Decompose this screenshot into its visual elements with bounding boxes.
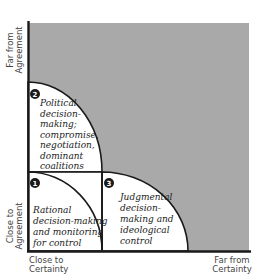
svg-text:decision-: decision- (40, 109, 81, 119)
svg-text:decision-making: decision-making (33, 216, 108, 226)
svg-text:negotiation,: negotiation, (40, 140, 95, 150)
x-axis-left-label: Close to Certainty (29, 255, 68, 274)
svg-text:2: 2 (33, 91, 38, 99)
svg-text:decision-: decision- (120, 203, 161, 213)
svg-text:making and: making and (120, 214, 174, 224)
svg-text:for control: for control (32, 238, 82, 248)
quadrant-3-badge: 3 (104, 178, 114, 188)
decision-making-diagram: Far from Agreement Close to Agreement Cl… (0, 0, 266, 280)
svg-text:Agreement: Agreement (14, 202, 24, 250)
svg-text:dominant: dominant (40, 151, 84, 161)
svg-text:Judgmental: Judgmental (118, 192, 173, 202)
svg-text:Certainty: Certainty (212, 264, 251, 274)
svg-text:making;: making; (40, 119, 77, 129)
quadrant-1-badge: 1 (30, 178, 40, 188)
y-axis-top-label: Far from Agreement (5, 26, 24, 74)
svg-text:compromise,: compromise, (40, 130, 99, 140)
svg-text:Agreement: Agreement (14, 26, 24, 74)
quadrant-2-badge: 2 (30, 89, 40, 99)
svg-text:Political: Political (39, 98, 77, 108)
svg-text:control: control (120, 236, 153, 246)
svg-text:1: 1 (33, 180, 38, 188)
svg-text:Certainty: Certainty (29, 264, 68, 274)
svg-text:3: 3 (107, 180, 112, 188)
x-axis-right-label: Far from Certainty (212, 255, 251, 274)
svg-text:and monitoring: and monitoring (33, 227, 103, 237)
svg-text:coalitions: coalitions (40, 161, 84, 171)
y-axis-bottom-label: Close to Agreement (5, 202, 24, 250)
svg-text:ideological: ideological (120, 225, 170, 235)
svg-text:Rational: Rational (32, 205, 71, 215)
